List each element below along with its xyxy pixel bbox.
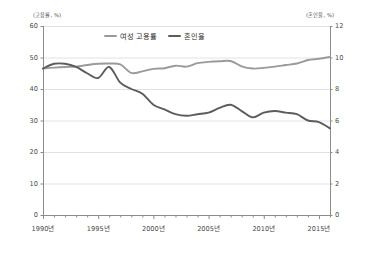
x-axis-tick-label: 1995년	[75, 223, 121, 233]
y-axis-tick-label-right: 12	[335, 22, 357, 30]
x-axis-tick-label: 1990년	[20, 223, 66, 233]
x-axis-tick-label: 2015년	[296, 223, 342, 233]
series-line-employment	[43, 57, 330, 73]
y-axis-tick-label-left: 0	[16, 211, 38, 219]
y-axis-tick-label-right: 8	[335, 85, 357, 93]
y-axis-tick-label-right: 6	[335, 117, 357, 125]
x-axis-tick-label: 2010년	[241, 223, 287, 233]
y-axis-tick-label-left: 20	[16, 148, 38, 156]
x-axis-tick-label: 2000년	[130, 223, 176, 233]
y-axis-tick-label-left: 10	[16, 180, 38, 188]
y-axis-tick-label-left: 60	[16, 22, 38, 30]
y-axis-tick-label-right: 4	[335, 148, 357, 156]
plot-area	[0, 0, 370, 254]
y-axis-tick-label-right: 2	[335, 180, 357, 188]
series-line-marriage	[43, 63, 330, 128]
x-axis-tick-label: 2005년	[186, 223, 232, 233]
y-axis-tick-label-right: 0	[335, 211, 357, 219]
y-axis-tick-label-left: 50	[16, 54, 38, 62]
y-axis-tick-label-right: 10	[335, 54, 357, 62]
chart-container: (고용률, %) (혼인율, %) 여성 고용률 혼인율 01020304050…	[0, 0, 370, 254]
y-axis-tick-label-left: 30	[16, 117, 38, 125]
y-axis-tick-label-left: 40	[16, 85, 38, 93]
